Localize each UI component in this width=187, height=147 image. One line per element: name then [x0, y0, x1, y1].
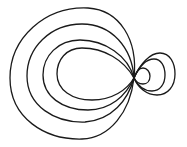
- right-loop-3: [134, 68, 150, 84]
- loop-diagram: [0, 0, 187, 147]
- left-loop-1: [10, 8, 135, 139]
- crossing-node: [133, 77, 135, 79]
- left-loop-4: [57, 48, 134, 100]
